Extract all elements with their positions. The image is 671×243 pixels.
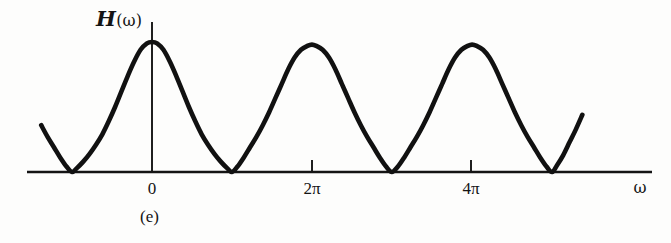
y-axis-label: H(ω) [96,8,142,29]
figure-panel-e: H(ω) 0 2π 4π ω (e) [0,0,671,243]
x-tick-label-2pi: 2π [303,180,320,197]
y-axis-label-argument: (ω) [116,11,142,30]
spectrum-plot [0,0,671,243]
panel-caption: (e) [140,208,159,225]
spectrum-curve [41,42,582,172]
y-axis-label-symbol: H [96,6,116,31]
x-tick-label-0: 0 [148,180,157,197]
x-axis-label: ω [633,180,646,196]
x-tick-label-4pi: 4π [462,180,479,197]
